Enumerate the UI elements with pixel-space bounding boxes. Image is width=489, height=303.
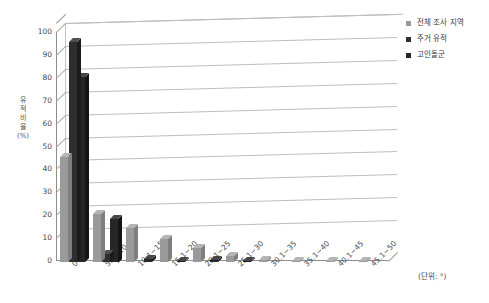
bar-face (210, 260, 218, 262)
bar-side (101, 210, 105, 262)
bar-face (93, 214, 101, 262)
y-axis-tick-label: 100 (28, 28, 52, 36)
y-axis-tick-label: 60 (28, 120, 52, 128)
bar (160, 239, 168, 262)
y-axis-tick-label: 20 (28, 211, 52, 219)
bar (226, 256, 234, 262)
bar (243, 261, 251, 262)
legend-swatch-icon (406, 53, 411, 58)
bar-face (193, 248, 201, 262)
bar-side (77, 38, 81, 262)
y-axis-tick-label: 50 (28, 143, 52, 151)
y-axis-tick-labels: 1009080706050403020100 (26, 23, 52, 271)
bar-face (60, 157, 68, 262)
y-axis-tick-label: 30 (28, 188, 52, 196)
legend-item: 주거 유적 (406, 35, 464, 43)
bar (359, 261, 367, 262)
chart-container: 유적비율(%) 1009080706050403020100 0~55.1~10… (0, 0, 489, 303)
bar-face (144, 259, 152, 262)
legend-label: 주거 유적 (417, 35, 447, 43)
bar-side (168, 235, 172, 262)
bar (177, 261, 185, 262)
bar (292, 261, 300, 262)
bar (259, 260, 267, 262)
bar (326, 261, 334, 262)
bar (60, 157, 68, 262)
bar (126, 228, 134, 262)
legend-item: 전체 조사 지역 (406, 19, 464, 27)
bar (193, 248, 201, 262)
bar-side (118, 215, 122, 262)
legend-label: 전체 조사 지역 (417, 19, 464, 27)
y-axis-tick-label: 70 (28, 97, 52, 105)
y-axis-tick-label: 90 (28, 51, 52, 59)
bar-side (85, 73, 89, 262)
bar (210, 260, 218, 262)
legend-swatch-icon (406, 37, 411, 42)
unit-note: (단위: °) (418, 270, 447, 281)
chart-legend: 전체 조사 지역주거 유적고인돌군 (406, 19, 464, 67)
bar-face (160, 239, 168, 262)
y-axis-tick-label: 0 (28, 257, 52, 265)
bar-face (226, 256, 234, 262)
legend-swatch-icon (406, 21, 411, 26)
bar-face (259, 260, 267, 262)
bar-side (134, 224, 138, 262)
legend-item: 고인돌군 (406, 51, 464, 59)
bar-side (68, 153, 72, 262)
bar (93, 214, 101, 262)
y-axis-tick-label: 40 (28, 165, 52, 173)
y-axis-tick-label: 10 (28, 234, 52, 242)
x-axis-tick-labels: 0~55.1~1010.1~1515.1~2020.1~2525.1~3030.… (56, 262, 416, 302)
bar (144, 259, 152, 262)
y-axis-tick-label: 80 (28, 74, 52, 82)
legend-label: 고인돌군 (417, 51, 445, 59)
bar-series-group (56, 23, 396, 271)
